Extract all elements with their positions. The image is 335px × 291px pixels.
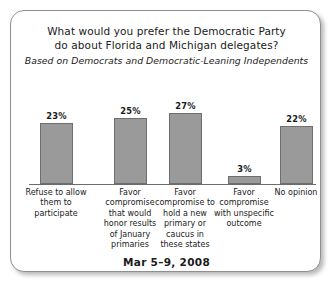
category-label-new-primary: Favor compromise to hold a new primary o…: [154, 188, 216, 250]
category-label-refuse: Refuse to allow them to participate: [25, 188, 87, 219]
bar-value-label: 22%: [280, 114, 313, 124]
bar-rect[interactable]: [114, 118, 147, 184]
bar-group: 22%: [280, 114, 313, 184]
chart-title-line-1: What would you prefer the Democratic Par…: [19, 24, 314, 38]
chart-title-line-2: do about Florida and Michigan delegates?: [19, 38, 314, 52]
bar-group: 23%: [40, 111, 73, 184]
x-axis-line: [29, 184, 316, 186]
bar-rect[interactable]: [228, 176, 261, 184]
bar-value-label: 25%: [114, 106, 147, 116]
chart-title-block: What would you prefer the Democratic Par…: [19, 24, 314, 68]
bar-value-label: 3%: [228, 164, 261, 174]
bar-value-label: 23%: [40, 111, 73, 121]
category-label-no-opinion: No opinion: [265, 188, 327, 198]
chart-date-footer: Mar 5–9, 2008: [19, 256, 314, 268]
bar-rect[interactable]: [40, 123, 73, 184]
plot-area: 23% 25% 27% 3% 22%: [29, 91, 316, 185]
bar-rect[interactable]: [280, 126, 313, 184]
bar-group: 3%: [228, 164, 261, 184]
category-label-honor-january: Favor compromise that would honor result…: [99, 188, 161, 250]
chart-subtitle: Based on Democrats and Democratic-Leanin…: [19, 54, 314, 68]
category-axis-labels: Refuse to allow them to participate Favo…: [29, 188, 316, 258]
bar-group: 27%: [169, 101, 202, 184]
chart-card: What would you prefer the Democratic Par…: [10, 10, 321, 272]
bar-group: 25%: [114, 106, 147, 184]
bar-rect[interactable]: [169, 113, 202, 184]
bar-value-label: 27%: [169, 101, 202, 111]
